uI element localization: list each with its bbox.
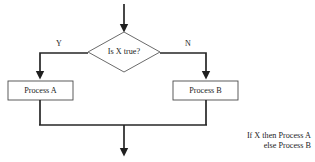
caption-line-1: If X then Process A xyxy=(247,131,311,140)
caption-line-2: else Process B xyxy=(264,141,312,150)
process-b-label: Process B xyxy=(189,86,222,95)
decision-label: Is X true? xyxy=(108,47,141,56)
no-branch-connector xyxy=(160,53,206,75)
flowchart-canvas: Is X true? Y N Process A Process B If X … xyxy=(0,0,315,162)
yes-branch-connector xyxy=(40,53,88,75)
flowchart-diagram: Is X true? Y N Process A Process B If X … xyxy=(0,0,315,162)
yes-branch-label: Y xyxy=(56,39,62,48)
process-a-label: Process A xyxy=(24,86,57,95)
no-branch-label: N xyxy=(185,39,191,48)
